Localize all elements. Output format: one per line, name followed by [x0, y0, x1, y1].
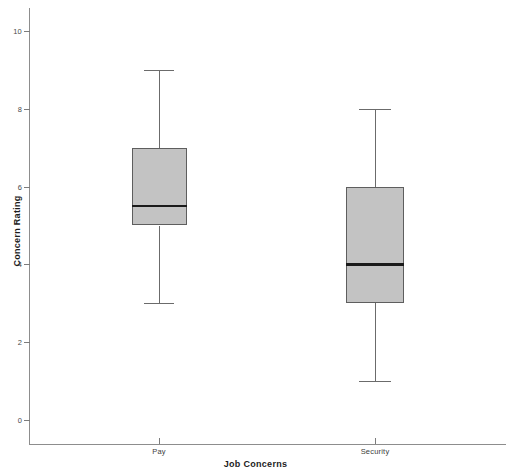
y-axis-tick: [24, 187, 30, 188]
y-axis-tick: [24, 264, 30, 265]
y-axis-tick-label: 2: [18, 338, 22, 347]
x-axis-line: [29, 444, 506, 445]
x-axis-tick: [375, 438, 376, 444]
x-axis-title: Job Concerns: [0, 459, 511, 469]
boxplot-chart: 0246810 PaySecurity Concern Rating Job C…: [0, 0, 511, 475]
x-axis-tick-label-pay: Pay: [152, 447, 166, 456]
median-line: [132, 205, 187, 208]
y-axis-tick: [24, 109, 30, 110]
y-axis-title: Concern Rating: [12, 171, 22, 291]
iqr-box: [132, 148, 187, 226]
iqr-box: [346, 187, 404, 304]
x-axis-tick: [159, 438, 160, 444]
y-axis-tick-label: 0: [18, 416, 22, 425]
upper-whisker-stem: [375, 109, 376, 187]
x-axis-tick-label-security: Security: [361, 447, 390, 456]
lower-whisker-stem: [159, 226, 160, 304]
y-axis-tick-label: 10: [13, 27, 22, 36]
y-axis-line: [29, 8, 30, 445]
median-line: [346, 263, 404, 266]
y-axis-tick: [24, 31, 30, 32]
lower-whisker-stem: [375, 303, 376, 381]
y-axis-tick-label: 8: [18, 104, 22, 113]
upper-whisker-cap: [144, 70, 175, 71]
y-axis-tick: [24, 420, 30, 421]
upper-whisker-cap: [359, 109, 391, 110]
y-axis-tick: [24, 342, 30, 343]
lower-whisker-cap: [144, 303, 175, 304]
upper-whisker-stem: [159, 70, 160, 148]
lower-whisker-cap: [359, 381, 391, 382]
